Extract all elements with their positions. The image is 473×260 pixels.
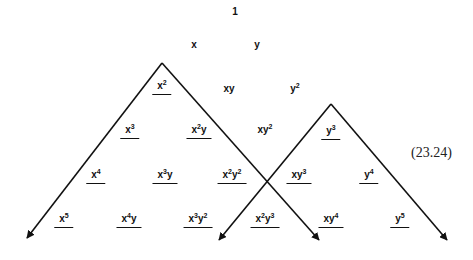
term-tx3y: x3y [152,169,177,184]
equation-number: (23.24) [411,145,452,161]
term-ty3: y3 [321,125,340,140]
term-tx2y: x2y [186,124,211,139]
term-tx3y2: x3y2 [184,213,213,228]
term-txy2: xy2 [257,124,272,135]
term-ty2: y2 [290,83,299,94]
term-tx4y: x4y [116,213,141,228]
term-tx3: x3 [120,124,139,139]
term-t1: 1 [232,6,238,17]
term-tx2y3: x2y3 [251,213,280,228]
right-triangle-right-arrow [331,104,447,240]
term-tx5: x5 [54,213,73,228]
term-tx4: x4 [86,169,105,184]
left-triangle-left-arrow [27,63,162,238]
term-txy: xy [223,83,234,94]
pascal-triangle-figure: 1xyx2xyy2x3x2yxy2y3x4x3yx2y2xy3y4x5x4yx3… [0,0,473,260]
term-ty5: y5 [390,213,409,228]
term-ty4: y4 [359,169,378,184]
term-ty: y [254,39,260,50]
term-txy3: xy3 [286,169,311,184]
term-tx2: x2 [152,80,171,95]
term-tx2y2: x2y2 [218,169,247,184]
term-tx: x [191,39,197,50]
term-txy4: xy4 [318,213,343,228]
